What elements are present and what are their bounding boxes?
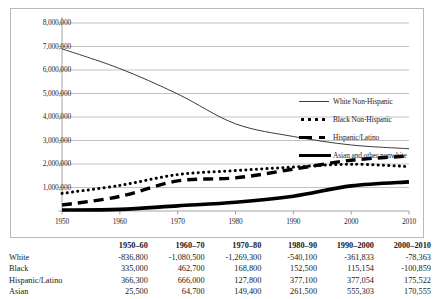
- table-col-header: 1980–90: [263, 240, 319, 252]
- dotted-line-icon: [299, 114, 333, 126]
- table-cell: 64,700: [150, 286, 207, 297]
- table-col-header: 2000–2010: [376, 240, 433, 252]
- population-change-table: 1950–60 1960–70 1970–80 1980–90 1990–200…: [4, 240, 433, 298]
- table-row-label: Hispanic/Latino: [4, 275, 94, 286]
- table-row-label: Asian: [4, 286, 94, 297]
- dashed-line-icon: [299, 132, 333, 144]
- x-axis-tick-label: 1960: [113, 218, 127, 225]
- table-row: Hispanic/Latino 366,300 666,000 127,800 …: [4, 275, 433, 286]
- legend-item-black-non-hispanic: Black Non-Hispanic: [299, 111, 429, 128]
- table-cell: 377,100: [263, 275, 319, 286]
- legend-label: Hispanic/Latino: [333, 133, 379, 142]
- table-cell: 115,154: [319, 263, 376, 274]
- table-cell: 170,555: [376, 286, 433, 297]
- table-row: Asian 25,500 64,700 149,400 261,500 555,…: [4, 286, 433, 297]
- table-row: Black 335,000 462,700 168,800 152,500 11…: [4, 263, 433, 274]
- table-row: White -836,800 -1,080,500 -1,269,300 -54…: [4, 252, 433, 263]
- legend-label: Asian and other nonwhite: [333, 151, 407, 160]
- legend-item-hispanic-latino: Hispanic/Latino: [299, 129, 429, 146]
- x-axis-tick-label: 1970: [171, 218, 185, 225]
- table-cell: 168,800: [207, 263, 264, 274]
- table-cell: 366,300: [94, 275, 150, 286]
- table-cell: 555,303: [319, 286, 376, 297]
- table-cell: -100,859: [376, 263, 433, 274]
- table-cell: -1,269,300: [207, 252, 264, 263]
- table-row-label: Black: [4, 263, 94, 274]
- legend-item-white-non-hispanic: White Non-Hispanic: [299, 93, 429, 110]
- table-header-row: 1950–60 1960–70 1970–80 1980–90 1990–200…: [4, 240, 433, 252]
- table-row-label: White: [4, 252, 94, 263]
- table-cell: 25,500: [94, 286, 150, 297]
- x-axis-tick-label: 1980: [228, 218, 242, 225]
- table-cell: -78,363: [376, 252, 433, 263]
- figure-root: -1,000,0002,000,0003,000,0004,000,0005,0…: [0, 0, 437, 299]
- thick-solid-line-icon: [299, 150, 333, 162]
- chart-legend: White Non-Hispanic Black Non-Hispanic Hi…: [299, 93, 429, 165]
- thin-solid-line-icon: [299, 96, 333, 108]
- legend-item-asian-and-other-nonwhite: Asian and other nonwhite: [299, 147, 429, 164]
- x-axis-tick-label: 2010: [402, 218, 416, 225]
- table-cell: 335,000: [94, 263, 150, 274]
- table-col-header: 1990–2000: [319, 240, 376, 252]
- table-cell: -836,800: [94, 252, 150, 263]
- table-cell: 666,000: [150, 275, 207, 286]
- x-axis-tick-label: 1990: [286, 218, 300, 225]
- table-col-header: 1970–80: [207, 240, 264, 252]
- x-axis-tick-label: 2000: [344, 218, 358, 225]
- table-body: White -836,800 -1,080,500 -1,269,300 -54…: [4, 252, 433, 298]
- table-cell: 149,400: [207, 286, 264, 297]
- table-cell: 462,700: [150, 263, 207, 274]
- table-corner-header: [4, 240, 94, 252]
- table-cell: -361,833: [319, 252, 376, 263]
- table-cell: 152,500: [263, 263, 319, 274]
- table-cell: 175,522: [376, 275, 433, 286]
- legend-label: Black Non-Hispanic: [333, 115, 392, 124]
- table-cell: -1,080,500: [150, 252, 207, 263]
- legend-label: White Non-Hispanic: [333, 97, 393, 106]
- table-cell: -540,100: [263, 252, 319, 263]
- table-col-header: 1950–60: [94, 240, 150, 252]
- table-cell: 261,500: [263, 286, 319, 297]
- table-cell: 377,054: [319, 275, 376, 286]
- chart-panel: -1,000,0002,000,0003,000,0004,000,0005,0…: [10, 8, 424, 238]
- table-col-header: 1960–70: [150, 240, 207, 252]
- x-axis-tick-label: 1950: [55, 218, 69, 225]
- table-header: 1950–60 1960–70 1970–80 1980–90 1990–200…: [4, 240, 433, 252]
- table-cell: 127,800: [207, 275, 264, 286]
